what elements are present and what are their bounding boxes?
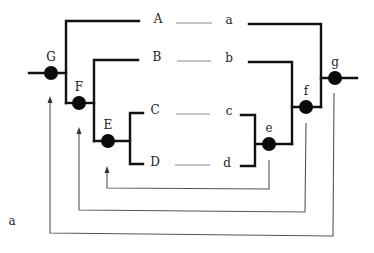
label-a: a [225,13,232,27]
label-d: d [223,156,231,170]
label-C: C [150,103,159,117]
arrowhead-E [105,166,110,173]
label-E: E [104,118,113,132]
arrowhead-G [48,96,53,103]
dash-connectors [175,23,212,165]
left-tree [29,21,143,164]
bracket-B [94,60,138,141]
label-G: G [46,50,56,64]
node-g [328,71,342,85]
sequence-labels: A B C D a b c d a [8,12,233,228]
label-B: B [153,50,162,64]
label-g: g [331,55,339,69]
node-labels: G F E g f e [46,50,339,135]
bracket-diagram: G F E g f e A B C D a b c d a [0,0,374,253]
bracket-cd [241,115,255,166]
label-A: A [153,12,163,26]
node-E [101,134,115,148]
label-D: D [150,155,160,169]
label-e: e [265,121,272,135]
right-nodes [262,71,342,151]
node-e [262,137,276,151]
label-c: c [226,104,233,118]
node-f [299,100,313,114]
label-f: f [304,84,310,98]
bracket-a [249,24,321,107]
bracket-CD [130,113,143,164]
right-tree [241,24,357,166]
node-F [72,96,86,110]
arrowhead-F [77,127,82,134]
stray-label-a: a [8,214,15,228]
label-b: b [225,51,233,65]
label-F: F [75,80,83,94]
node-G [44,66,58,80]
